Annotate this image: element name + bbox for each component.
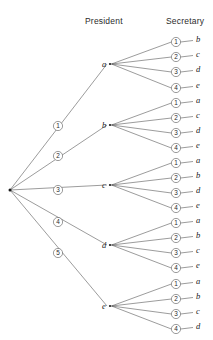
- level2-branch-label-e-1: 1: [174, 280, 178, 287]
- leaf-stub-b-e: [181, 147, 193, 149]
- leaf-stub-e-c: [181, 313, 193, 315]
- leaf-stub-d-a: [181, 222, 193, 224]
- secretary-leaf-a-d: d: [196, 64, 201, 74]
- level2-edge-c-e: [112, 185, 172, 208]
- secretary-leaf-a-c: c: [196, 49, 200, 59]
- level2-branch-label-c-2: 2: [174, 174, 178, 181]
- level2-branch-label-d-2: 2: [174, 234, 178, 241]
- level2-branch-label-d-1: 1: [174, 219, 178, 226]
- secretary-leaf-b-a: a: [196, 95, 200, 105]
- secretary-leaf-labels: bcdeacdeabdeabceabcd: [196, 34, 201, 331]
- level2-edge-a-d: [112, 64, 172, 72]
- level1-branch-label-2: 2: [56, 152, 60, 159]
- level2-edge-c-d: [112, 185, 172, 193]
- level2-branch-label-d-3: 3: [174, 249, 178, 256]
- secretary-leaf-e-d: d: [196, 321, 201, 331]
- level1-branch-markers: 12345: [53, 121, 62, 257]
- leaf-stubs: [181, 41, 193, 330]
- president-dot-c: [109, 184, 111, 186]
- secretary-leaf-d-e: e: [196, 260, 200, 270]
- level1-branch-label-5: 5: [56, 249, 60, 256]
- secretary-leaf-c-b: b: [196, 170, 200, 180]
- level1-branch-label-3: 3: [56, 186, 60, 193]
- leaf-stub-c-a: [181, 162, 193, 164]
- president-node-b: b: [102, 120, 106, 130]
- leaf-stub-b-a: [181, 102, 193, 104]
- level2-branch-label-a-4: 4: [174, 84, 178, 91]
- level2-branch-label-c-4: 4: [174, 204, 178, 211]
- secretary-leaf-d-b: b: [196, 230, 200, 240]
- leaf-stub-e-d: [181, 328, 193, 330]
- president-dot-d: [109, 244, 111, 246]
- president-dot-e: [109, 305, 111, 307]
- secretary-leaf-c-a: a: [196, 155, 200, 165]
- level2-branch-label-b-2: 2: [174, 114, 178, 121]
- secretary-leaf-c-d: d: [196, 185, 201, 195]
- leaf-stub-a-e: [181, 87, 193, 89]
- president-dot-b: [109, 124, 111, 126]
- level2-branch-label-e-2: 2: [174, 295, 178, 302]
- leaf-stub-b-d: [181, 132, 193, 134]
- leaf-stub-c-b: [181, 177, 193, 179]
- level2-branch-label-a-3: 3: [174, 68, 178, 75]
- secretary-leaf-b-d: d: [196, 125, 201, 135]
- level2-edge-d-c: [112, 245, 172, 253]
- level1-edges: [10, 64, 107, 306]
- root-node: [9, 189, 12, 192]
- level2-branch-label-e-4: 4: [174, 325, 178, 332]
- secretary-leaf-b-e: e: [196, 140, 200, 150]
- level2-branch-label-b-3: 3: [174, 129, 178, 136]
- secretary-leaf-c-e: e: [196, 200, 200, 210]
- level1-branch-label-4: 4: [56, 218, 60, 225]
- leaf-stub-a-b: [181, 41, 193, 43]
- leaf-stub-e-b: [181, 298, 193, 300]
- level2-branch-label-d-4: 4: [174, 264, 178, 271]
- leaf-stub-b-c: [181, 117, 193, 119]
- president-dot-a: [109, 63, 111, 65]
- level2-branch-markers: 12341234123412341234: [171, 37, 180, 333]
- level1-edge-e: [10, 190, 107, 306]
- level2-branch-label-b-1: 1: [174, 99, 178, 106]
- level2-edge-b-d: [112, 125, 172, 133]
- level2-branch-label-c-3: 3: [174, 189, 178, 196]
- president-node-e: e: [102, 301, 106, 311]
- secretary-leaf-d-c: c: [196, 245, 200, 255]
- tree-diagram-svg: 12345 12341234123412341234 abcde bcdeacd…: [0, 0, 213, 340]
- level2-edges: [112, 42, 172, 329]
- leaf-stub-d-c: [181, 252, 193, 254]
- level2-branch-label-e-3: 3: [174, 310, 178, 317]
- level2-edge-e-c: [112, 306, 172, 314]
- leaf-stub-d-e: [181, 267, 193, 269]
- leaf-stub-a-c: [181, 56, 193, 58]
- level2-edge-d-e: [112, 245, 172, 268]
- level2-edge-a-e: [112, 64, 172, 88]
- level2-branch-label-c-1: 1: [174, 159, 178, 166]
- secretary-leaf-b-c: c: [196, 110, 200, 120]
- level2-edge-e-d: [112, 306, 172, 329]
- leaf-stub-c-e: [181, 207, 193, 209]
- secretary-leaf-a-b: b: [196, 34, 200, 44]
- level2-branch-label-a-1: 1: [174, 38, 178, 45]
- leaf-stub-c-d: [181, 192, 193, 194]
- president-node-a: a: [102, 59, 106, 69]
- diagram-canvas: President Secretary 12345 12341234123412…: [0, 0, 213, 340]
- leaf-stub-e-a: [181, 283, 193, 285]
- level2-branch-label-b-4: 4: [174, 144, 178, 151]
- president-node-d: d: [102, 240, 107, 250]
- level2-edge-b-e: [112, 125, 172, 148]
- leaf-stub-d-b: [181, 237, 193, 239]
- level2-branch-label-a-2: 2: [174, 53, 178, 60]
- secretary-leaf-e-a: a: [196, 276, 200, 286]
- secretary-leaf-e-b: b: [196, 291, 200, 301]
- secretary-leaf-a-e: e: [196, 80, 200, 90]
- leaf-stub-a-d: [181, 71, 193, 73]
- level1-branch-label-1: 1: [56, 122, 60, 129]
- root-dot: [9, 189, 12, 192]
- president-node-c: c: [102, 180, 106, 190]
- secretary-leaf-d-a: a: [196, 215, 200, 225]
- secretary-leaf-e-c: c: [196, 306, 200, 316]
